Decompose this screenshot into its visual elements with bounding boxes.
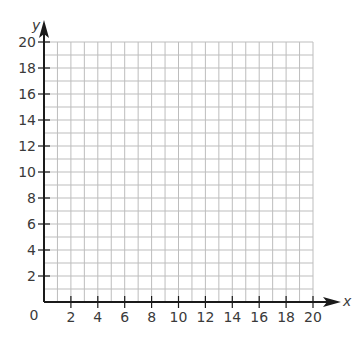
x-tick-label: 12 bbox=[196, 309, 214, 325]
tick-labels: 24681012141618202468101214161820 bbox=[18, 34, 322, 325]
y-tick-label: 20 bbox=[18, 34, 36, 50]
coordinate-grid-chart: 24681012141618202468101214161820 x y 0 bbox=[0, 0, 362, 338]
grid-lines bbox=[44, 42, 313, 302]
y-tick-label: 8 bbox=[27, 190, 36, 206]
origin-label: 0 bbox=[30, 307, 39, 323]
x-tick-label: 4 bbox=[93, 309, 102, 325]
y-tick-label: 10 bbox=[18, 164, 36, 180]
x-tick-label: 6 bbox=[120, 309, 129, 325]
x-tick-label: 10 bbox=[170, 309, 188, 325]
y-tick-label: 18 bbox=[18, 60, 36, 76]
y-tick-label: 16 bbox=[18, 86, 36, 102]
x-tick-label: 18 bbox=[277, 309, 295, 325]
tick-marks bbox=[38, 42, 313, 308]
x-tick-label: 8 bbox=[147, 309, 156, 325]
x-axis-label: x bbox=[342, 293, 352, 309]
y-tick-label: 4 bbox=[27, 242, 36, 258]
x-tick-label: 2 bbox=[66, 309, 75, 325]
y-tick-label: 14 bbox=[18, 112, 36, 128]
x-tick-label: 20 bbox=[304, 309, 322, 325]
y-tick-label: 6 bbox=[27, 216, 36, 232]
y-axis-label: y bbox=[31, 17, 41, 33]
y-tick-label: 12 bbox=[18, 138, 36, 154]
y-tick-label: 2 bbox=[27, 268, 36, 284]
x-tick-label: 16 bbox=[250, 309, 268, 325]
x-tick-label: 14 bbox=[223, 309, 241, 325]
